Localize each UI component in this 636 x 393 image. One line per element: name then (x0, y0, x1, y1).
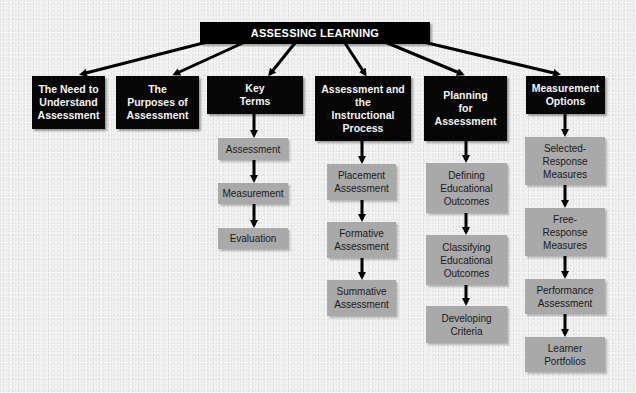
connector-arrows (0, 0, 636, 393)
subtopic-assessment: Assessment (218, 138, 288, 160)
subtopic-free-response: Free- Response Measures (525, 208, 605, 256)
subtopic-learner-portfolios: Learner Portfolios (525, 337, 605, 372)
topic-planning: Planning for Assessment (424, 76, 507, 141)
subtopic-developing-criteria: Developing Criteria (426, 306, 507, 343)
topic-instructional-process: Assessment and the Instructional Process (315, 76, 411, 141)
topic-measurement-options: Measurement Options (526, 76, 605, 114)
subtopic-formative-assessment: Formative Assessment (327, 222, 396, 258)
subtopic-evaluation: Evaluation (218, 228, 288, 249)
subtopic-measurement: Measurement (218, 183, 288, 204)
subtopic-selected-response: Selected- Response Measures (525, 137, 605, 185)
subtopic-performance-assessment: Performance Assessment (525, 279, 605, 314)
subtopic-placement-assessment: Placement Assessment (327, 164, 396, 200)
concept-map: ASSESSING LEARNING The Need to Understan… (0, 0, 636, 393)
root-node: ASSESSING LEARNING (200, 22, 430, 44)
subtopic-summative-assessment: Summative Assessment (327, 280, 396, 316)
topic-key-terms: Key Terms (207, 76, 303, 114)
topic-need-to-understand: The Need to Understand Assessment (32, 76, 105, 129)
topic-purposes: The Purposes of Assessment (116, 76, 199, 129)
subtopic-defining-outcomes: Defining Educational Outcomes (426, 163, 507, 213)
subtopic-classifying-outcomes: Classifying Educational Outcomes (426, 235, 507, 285)
